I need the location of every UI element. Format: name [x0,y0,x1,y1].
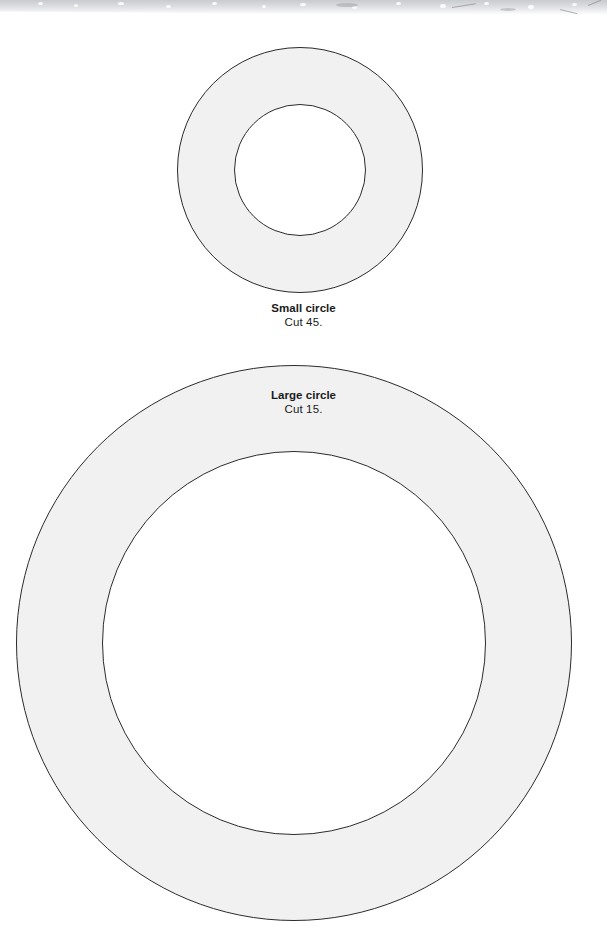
scan-speck [440,4,446,8]
scan-speck [262,5,266,8]
scan-speck [396,2,401,5]
scan-smudge [500,8,516,11]
small-circle-label-block: Small circle Cut 45. [0,302,607,329]
large-circle-label-block: Large circle Cut 15. [0,389,607,416]
large-circle-ring [16,366,571,921]
scan-speck [300,3,306,6]
large-circle-figure [16,365,572,921]
template-sheet-page: Small circle Cut 45. Large circle Cut 15… [0,0,607,936]
large-circle-instruction: Cut 15. [0,403,607,417]
scan-speck [212,2,217,5]
small-circle-instruction: Cut 45. [0,316,607,330]
small-circle-ring [177,48,422,293]
scan-edge-band [0,0,607,16]
scan-speck [572,3,577,6]
small-circle-title: Small circle [0,302,607,316]
scan-speck [352,6,357,9]
large-circle-inner-edge [103,452,486,835]
scan-speck [74,4,78,7]
scan-hairline [560,9,578,14]
small-circle-inner-edge [235,105,366,236]
scan-speck [484,2,489,5]
scan-hairline [452,3,476,8]
large-circle-title: Large circle [0,389,607,403]
scan-speck [38,2,43,5]
scan-speck [166,5,171,8]
scan-speck [528,5,534,9]
scan-speck [118,2,124,5]
scan-edge-artifact [0,0,607,17]
scan-hairline [588,0,601,6]
small-circle-figure [177,47,423,293]
scan-smudge [336,3,358,7]
